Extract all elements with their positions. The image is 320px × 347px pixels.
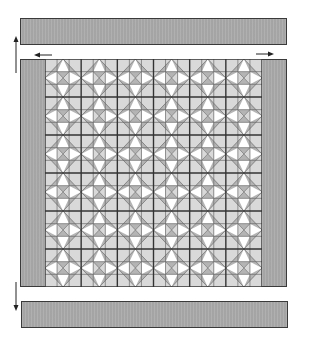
pieced-blocks-grid bbox=[45, 59, 262, 287]
quilt-center-assembly bbox=[20, 59, 287, 287]
right-arrow-icon bbox=[254, 49, 274, 59]
right-border-strip bbox=[261, 59, 287, 287]
bottom-border-strip bbox=[21, 301, 288, 328]
left-border-strip bbox=[20, 59, 46, 287]
top-border-strip bbox=[20, 18, 287, 45]
